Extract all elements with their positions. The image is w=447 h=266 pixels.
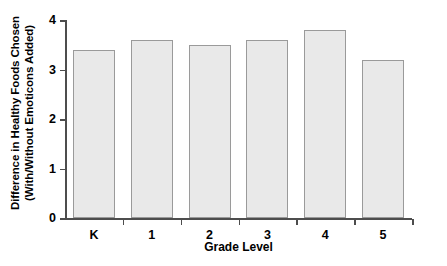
y-tick-label: 2 bbox=[49, 112, 56, 126]
bar-series: K12345 bbox=[65, 20, 412, 218]
x-tick-mark bbox=[296, 219, 298, 225]
y-axis-title-line-1: Difference in Healthy Foods Chosen bbox=[8, 16, 22, 210]
plot-area: 01234 K12345 bbox=[65, 20, 412, 218]
y-axis-title: Difference in Healthy Foods Chosen (With… bbox=[0, 0, 44, 226]
bar-slot: 5 bbox=[354, 20, 412, 218]
x-tick-mark bbox=[181, 219, 183, 225]
x-tick-mark bbox=[123, 219, 125, 225]
bar-slot: 4 bbox=[296, 20, 354, 218]
bar-slot: K bbox=[65, 20, 123, 218]
bar-K bbox=[73, 50, 115, 218]
bar-3 bbox=[246, 40, 288, 218]
x-axis-title: Grade Level bbox=[65, 240, 412, 254]
y-tick-mark bbox=[60, 218, 65, 220]
x-tick-mark bbox=[412, 219, 414, 225]
bar-2 bbox=[189, 45, 231, 218]
x-tick-mark bbox=[354, 219, 356, 225]
bar-slot: 2 bbox=[181, 20, 239, 218]
bar-5 bbox=[362, 60, 404, 218]
x-tick-mark bbox=[239, 219, 241, 225]
y-tick-label: 1 bbox=[49, 162, 56, 176]
bar-1 bbox=[131, 40, 173, 218]
bar-4 bbox=[304, 30, 346, 218]
y-tick-label: 4 bbox=[49, 13, 56, 27]
bar-slot: 1 bbox=[123, 20, 181, 218]
bar-slot: 3 bbox=[239, 20, 297, 218]
y-tick-label: 0 bbox=[49, 211, 56, 225]
y-tick-label: 3 bbox=[49, 63, 56, 77]
bar-chart-figure: Difference in Healthy Foods Chosen (With… bbox=[0, 0, 447, 266]
y-axis-title-line-2: (With/Without Emoticons Added) bbox=[22, 16, 36, 210]
